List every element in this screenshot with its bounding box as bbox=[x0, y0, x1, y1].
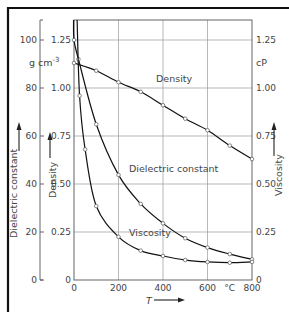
data-point bbox=[72, 61, 76, 65]
data-point bbox=[139, 90, 143, 94]
data-point bbox=[228, 144, 232, 148]
x-unit-label: °C bbox=[224, 283, 235, 293]
plot-area bbox=[74, 20, 252, 280]
tick-label: 1.00 bbox=[51, 83, 71, 93]
arrowhead-icon bbox=[272, 122, 277, 130]
data-point bbox=[139, 202, 143, 206]
data-point bbox=[250, 157, 254, 161]
density-axis-title: Density bbox=[47, 132, 58, 198]
data-point bbox=[183, 236, 187, 240]
tick-label: 100 bbox=[20, 35, 37, 45]
data-point bbox=[94, 204, 98, 208]
data-point bbox=[78, 94, 82, 98]
curve-label-viscosity: Viscosity bbox=[129, 227, 171, 238]
tick-label: 0 bbox=[71, 283, 77, 293]
tick-label: 1.00 bbox=[256, 83, 276, 93]
tick-label: 20 bbox=[26, 227, 38, 237]
figure-frame bbox=[8, 8, 289, 312]
gridlines bbox=[74, 20, 252, 280]
arrowhead-icon bbox=[17, 122, 22, 130]
curve-label-density: Density bbox=[156, 73, 192, 84]
tick-label: 60 bbox=[26, 131, 38, 141]
data-point bbox=[117, 235, 121, 239]
tick-label: 0.75 bbox=[256, 131, 276, 141]
tick-label: 600 bbox=[199, 283, 216, 293]
data-point bbox=[206, 246, 210, 250]
tick-label: 0.25 bbox=[51, 227, 71, 237]
chart: 020406080100 00.250.500.751.001.25 00.25… bbox=[0, 0, 289, 312]
data-point bbox=[72, 38, 76, 42]
tick-label: 200 bbox=[110, 283, 127, 293]
data-point bbox=[94, 69, 98, 73]
density-axis-ticks: 00.250.500.751.001.25 bbox=[51, 35, 71, 285]
tick-label: 40 bbox=[26, 179, 38, 189]
tick-label: 0 bbox=[31, 275, 37, 285]
data-point bbox=[161, 103, 165, 107]
data-point bbox=[94, 122, 98, 126]
dielectric-axis-title: Dielectric constant bbox=[8, 122, 22, 238]
curve-label-dielectric: Dielectric constant bbox=[129, 163, 219, 174]
tick-label: 0.25 bbox=[256, 227, 276, 237]
data-point bbox=[183, 258, 187, 262]
data-point bbox=[250, 260, 254, 264]
data-point bbox=[206, 128, 210, 132]
data-point bbox=[117, 173, 121, 177]
data-point bbox=[183, 117, 187, 121]
svg-text:Density: Density bbox=[47, 162, 58, 198]
data-point bbox=[161, 254, 165, 258]
viscosity-unit-label: cP bbox=[256, 57, 267, 68]
tick-label: 1.25 bbox=[51, 35, 71, 45]
data-point bbox=[83, 148, 87, 152]
data-point bbox=[228, 252, 232, 256]
tick-label: 800 bbox=[243, 283, 260, 293]
tick-label: 1.25 bbox=[256, 35, 276, 45]
data-point bbox=[206, 260, 210, 264]
density-unit-label: g cm-3 bbox=[29, 56, 60, 68]
data-point bbox=[139, 249, 143, 253]
svg-text:Viscosity: Viscosity bbox=[273, 154, 284, 196]
arrowhead-icon bbox=[178, 298, 185, 303]
data-point bbox=[117, 80, 121, 84]
data-point bbox=[161, 222, 165, 226]
data-point bbox=[228, 261, 232, 265]
tick-label: 0.75 bbox=[51, 131, 71, 141]
tick-label: 80 bbox=[26, 83, 38, 93]
tick-label: 400 bbox=[154, 283, 171, 293]
svg-text:T: T bbox=[146, 295, 153, 306]
svg-text:Dielectric constant: Dielectric constant bbox=[8, 148, 19, 238]
x-axis-ticks: 0200400600800°C bbox=[71, 283, 261, 293]
x-axis-title: T bbox=[146, 295, 185, 306]
